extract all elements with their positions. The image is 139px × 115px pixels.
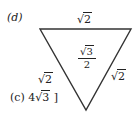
- area-label: √3 2: [78, 46, 96, 70]
- radicand: 2: [83, 12, 92, 26]
- option-prefix: (c) 4: [10, 91, 35, 104]
- radicand: 3: [85, 45, 93, 57]
- radicand: 2: [44, 72, 53, 86]
- area-numerator: √3: [78, 46, 96, 59]
- area-denominator: 2: [78, 59, 96, 71]
- top-side-label: √2: [77, 14, 92, 25]
- radicand: 3: [41, 90, 50, 104]
- right-side-label: √2: [111, 71, 126, 82]
- answer-option-c: (c) 4√3 ]: [10, 92, 58, 103]
- part-label-d: (d): [7, 12, 23, 23]
- left-side-label: √2: [38, 74, 53, 85]
- option-suffix: ]: [50, 91, 58, 104]
- radicand: 2: [117, 69, 126, 83]
